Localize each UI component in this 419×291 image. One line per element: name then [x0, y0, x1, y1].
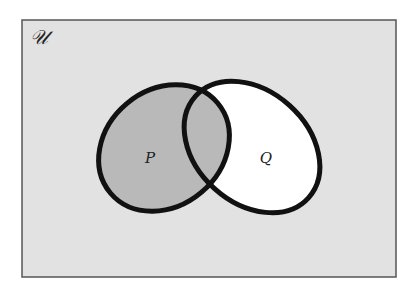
set-p-label: P: [144, 149, 156, 167]
set-q-label: Q: [260, 149, 272, 167]
venn-diagram: 𝒰 P Q: [0, 0, 419, 291]
